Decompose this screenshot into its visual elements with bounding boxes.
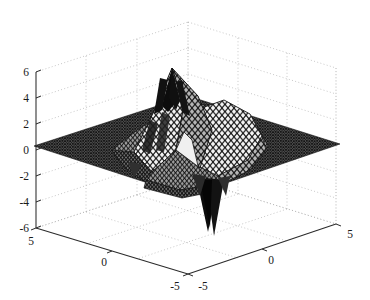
z-tick-4: 4 [23,92,29,104]
y-axis-tick-labels: -5 0 5 [198,228,353,292]
axis-lines [36,224,336,274]
z-tick-0: 0 [23,144,29,156]
z-tick-neg4: -4 [19,196,29,208]
x-axis-tick-labels: 5 0 -5 [28,235,180,292]
x-tick-0: 0 [101,256,107,268]
z-tick-2: 2 [23,118,29,130]
y-tick-0: 0 [268,254,274,266]
z-axis-tick-labels: 6 4 2 0 -2 -4 -6 [19,66,29,234]
figure-canvas: 6 4 2 0 -2 -4 -6 5 0 -5 -5 0 5 [0,0,370,300]
surface-plot: 6 4 2 0 -2 -4 -6 5 0 -5 -5 0 5 [0,0,370,300]
x-tick-neg5: -5 [170,280,180,292]
x-tick-5: 5 [28,235,34,247]
z-tick-neg6: -6 [19,222,29,234]
surface-valley-spike [192,174,230,236]
z-tick-neg2: -2 [19,170,29,182]
y-tick-neg5: -5 [198,280,208,292]
z-tick-6: 6 [23,66,29,78]
y-tick-5: 5 [347,228,353,240]
